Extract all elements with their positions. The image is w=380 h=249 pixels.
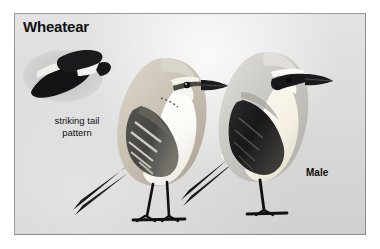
illustration-panel: Wheatear striking tail pattern Female Ma… [14,13,366,235]
female-label: Female [104,233,138,235]
tail-pattern-caption-line2: pattern [31,127,123,139]
bird-identification-plate: Wheatear striking tail pattern Female Ma… [0,0,380,249]
male-label: Male [306,167,328,178]
page-title: Wheatear [23,18,89,35]
tail-pattern-inset [23,50,111,102]
tail-pattern-caption-line1: striking tail [31,115,123,127]
tail-pattern-caption: striking tail pattern [31,115,123,139]
